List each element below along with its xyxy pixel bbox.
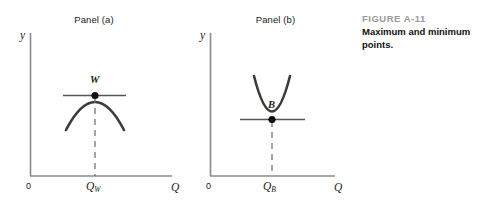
figure-number: FIGURE A-11	[362, 12, 474, 25]
panel-a-origin-label: 0	[26, 181, 31, 191]
panel-b-x-tick-label: QB	[263, 180, 276, 194]
panel-b-y-axis-label: y	[200, 29, 205, 41]
panel-b-origin-label: 0	[206, 181, 211, 191]
figure-container: Panel (a) W y Q 0 QW Panel (b)	[0, 0, 479, 209]
panel-b-x-tick-subscript: B	[271, 185, 276, 194]
panel-a-max-point	[91, 92, 98, 99]
panel-b-x-axis-label: Q	[334, 181, 342, 193]
panel-a-curve	[66, 102, 124, 130]
panel-a-point-label: W	[90, 74, 99, 85]
figure-title: Maximum and minimum points.	[362, 26, 474, 51]
panel-a-plot	[0, 0, 190, 209]
figure-caption: FIGURE A-11 Maximum and minimum points.	[362, 12, 474, 51]
panel-a-y-axis-label: y	[20, 29, 25, 41]
panel-b-point-label: B	[268, 99, 275, 110]
panel-a-x-axis-label: Q	[171, 181, 179, 193]
panel-a-x-tick-subscript: W	[94, 185, 100, 194]
panel-a: Panel (a) W y Q 0 QW	[0, 0, 190, 209]
panel-b: Panel (b) B y Q 0 QB	[180, 0, 355, 209]
panel-a-x-tick-label: QW	[86, 180, 101, 194]
panel-b-min-point	[268, 116, 275, 123]
